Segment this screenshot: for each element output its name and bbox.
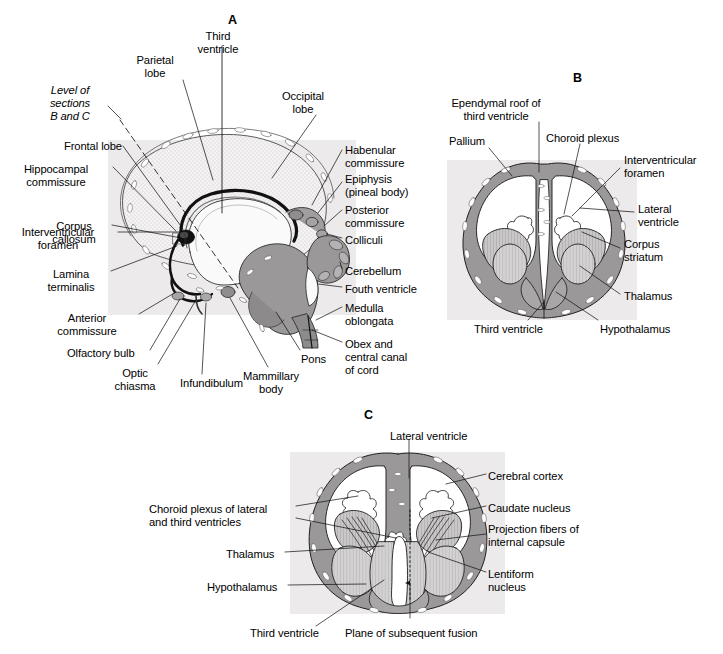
label-colliculi: Colliculi <box>345 234 383 247</box>
label-posterior-commissure: Posterior commissure <box>345 204 404 230</box>
label-third-ventricle-a: Third ventricle <box>148 30 288 56</box>
label-frontal-lobe: Frontal lobe <box>64 140 122 153</box>
panel-b-art <box>462 163 626 318</box>
label-hippocampal-commissure: Hippocampal commissure <box>0 163 126 189</box>
label-level-of-sections: Level of sections B and C <box>0 84 140 124</box>
panel-c-art <box>309 453 487 614</box>
label-lateral-ventricle-b: Lateral ventricle <box>638 203 679 229</box>
label-pallium: Pallium <box>397 135 537 148</box>
label-olfactory-bulb: Olfactory bulb <box>67 347 135 360</box>
label-obex-central-canal: Obex and central canal of cord <box>345 338 407 378</box>
label-mammillary-body: Mammillary body <box>201 370 341 396</box>
label-cerebral-cortex: Cerebral cortex <box>488 470 563 483</box>
panel-letter-a: A <box>228 14 237 27</box>
label-epiphysis: Epiphysis (pineal body) <box>345 173 408 199</box>
panel-letter-c: C <box>364 409 373 422</box>
label-fourth-ventricle: Fouth ventricle <box>345 283 417 296</box>
label-parietal-lobe: Parietal lobe <box>85 54 225 80</box>
label-thalamus-b: Thalamus <box>624 290 672 303</box>
label-caudate-nucleus: Caudate nucleus <box>488 502 570 515</box>
label-hypothalamus-b: Hypothalamus <box>600 323 670 336</box>
label-corpus-striatum: Corpus striatum <box>624 238 663 264</box>
label-third-ventricle-b: Third ventricle <box>474 323 543 336</box>
label-plane-of-fusion: Plane of subsequent fusion <box>345 627 477 640</box>
label-choroid-plexus-c: Choroid plexus of lateral and third vent… <box>149 503 267 529</box>
label-pons: Pons <box>301 353 326 366</box>
label-interventricular-foramen-b: Interventricular foramen <box>624 154 696 180</box>
label-habenular-commissure: Habenular commissure <box>345 144 404 170</box>
label-hypothalamus-c: Hypothalamus <box>207 581 277 594</box>
label-third-ventricle-c: Third ventricle <box>250 627 319 640</box>
label-cerebellum: Cerebellum <box>345 265 401 278</box>
label-interventricular-foramen-a: Interventricular foramen <box>0 226 128 252</box>
label-thalamus-c: Thalamus <box>226 548 274 561</box>
figure-canvas: ABC Third ventricleParietal lobeOccipita… <box>0 0 723 654</box>
label-lateral-ventricle-c: Lateral ventricle <box>390 430 467 443</box>
label-lamina-terminalis: Lamina terminalis <box>1 268 141 294</box>
label-lentiform-nucleus: Lentiform nucleus <box>488 568 534 594</box>
label-choroid-plexus-b: Choroid plexus <box>546 132 619 145</box>
panel-letter-b: B <box>573 72 582 85</box>
label-ependymal-roof: Ependymal roof of third ventricle <box>426 97 566 123</box>
label-projection-fibers: Projection fibers of internal capsule <box>488 523 579 549</box>
label-occipital-lobe: Occipital lobe <box>233 90 373 116</box>
label-anterior-commissure: Anterior commissure <box>17 312 157 338</box>
label-medulla-oblongata: Medulla oblongata <box>345 302 393 328</box>
